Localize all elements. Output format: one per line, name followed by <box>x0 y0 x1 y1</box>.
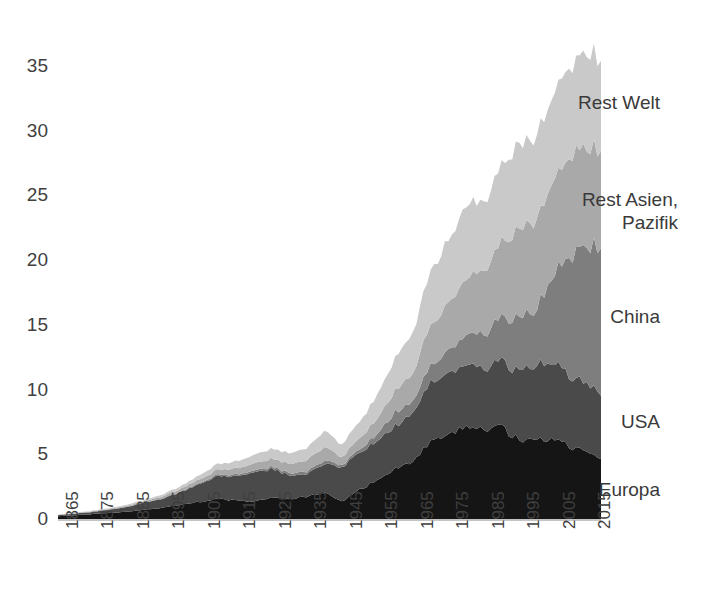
x-tick-1965: 1965 <box>419 491 436 529</box>
x-tick-1875: 1875 <box>99 491 116 529</box>
y-tick-30: 30 <box>8 121 48 140</box>
series-label-line: Rest Asien, <box>582 188 678 211</box>
x-tick-1905: 1905 <box>206 491 223 529</box>
series-label-line: Pazifik <box>582 211 678 234</box>
y-tick-35: 35 <box>8 56 48 75</box>
y-tick-5: 5 <box>8 444 48 463</box>
x-tick-1935: 1935 <box>312 491 329 529</box>
x-tick-1955: 1955 <box>383 491 400 529</box>
y-tick-0: 0 <box>8 509 48 528</box>
stacked-area-chart: 05101520253035 1865187518851895190519151… <box>0 0 712 609</box>
x-tick-1945: 1945 <box>348 491 365 529</box>
x-tick-2005: 2005 <box>561 491 578 529</box>
series-label-rest-welt: Rest Welt <box>578 91 660 114</box>
x-tick-1895: 1895 <box>170 491 187 529</box>
x-tick-1985: 1985 <box>490 491 507 529</box>
series-label-usa: USA <box>621 410 660 433</box>
x-tick-1925: 1925 <box>277 491 294 529</box>
y-tick-20: 20 <box>8 250 48 269</box>
y-tick-10: 10 <box>8 380 48 399</box>
x-tick-1975: 1975 <box>454 491 471 529</box>
x-tick-1995: 1995 <box>525 491 542 529</box>
series-label-china: China <box>610 305 660 328</box>
y-tick-15: 15 <box>8 315 48 334</box>
x-tick-1885: 1885 <box>135 491 152 529</box>
series-label-rest-asien-pazifik: Rest Asien,Pazifik <box>582 188 678 234</box>
x-tick-1865: 1865 <box>64 491 81 529</box>
y-tick-25: 25 <box>8 185 48 204</box>
series-label-europa: Europa <box>599 478 660 501</box>
x-tick-1915: 1915 <box>241 491 258 529</box>
